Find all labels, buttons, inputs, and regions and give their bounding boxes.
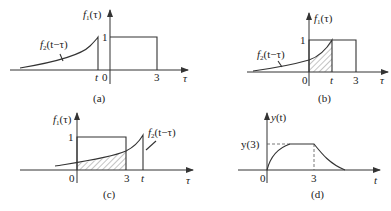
tick-three: 3 [311,172,317,184]
panel-d: y(t) y(3) 0 3 t (d) [238,111,380,201]
tick-three: 3 [124,172,130,184]
caption-d: (d) [311,188,324,201]
y-label: y(t) [270,111,287,124]
tick-zero: 0 [260,172,266,184]
caption-b: (b) [318,92,331,105]
y3-label: y(3) [241,138,260,151]
tick-three: 3 [154,71,160,83]
tick-zero: 0 [69,172,75,184]
convolution-figure: 1 f1(τ) f2(t−τ) t 0 3 τ (a) 1 f1(τ) f2(t… [0,0,391,211]
tick-t: t [95,71,99,83]
level-one-label: 1 [102,31,108,43]
y-curve [267,144,345,170]
f2-leader-line [278,61,282,67]
f2-leader-line [146,141,156,150]
f1-label: f1(τ) [83,8,102,22]
panel-c: 1 f1(τ) f2(t−τ) 0 3 t τ (c) [20,113,193,201]
tick-zero: 0 [302,74,308,86]
f2-label: f2(t−τ) [257,48,285,62]
level-one-label: 1 [68,131,74,143]
tau-label: τ [380,74,385,86]
caption-c: (c) [103,188,116,201]
tau-label: τ [183,72,188,84]
f1-label: f1(τ) [314,12,333,26]
f2-label: f2(t−τ) [148,126,176,140]
panel-a: 1 f1(τ) f2(t−τ) t 0 3 τ (a) [10,8,188,105]
f1-rectangle [110,37,157,70]
level-one-label: 1 [300,34,306,46]
tick-three: 3 [353,74,359,86]
t-axis-label: t [374,174,378,186]
tick-t: t [330,74,334,86]
tick-t: t [141,172,145,184]
panel-b: 1 f1(τ) f2(t−τ) 0 t 3 τ (b) [247,12,388,105]
f1-label: f1(τ) [53,113,72,127]
tick-zero: 0 [102,71,108,83]
f2-label: f2(t−τ) [40,38,68,52]
caption-a: (a) [93,92,106,105]
tau-label: τ [186,174,191,186]
